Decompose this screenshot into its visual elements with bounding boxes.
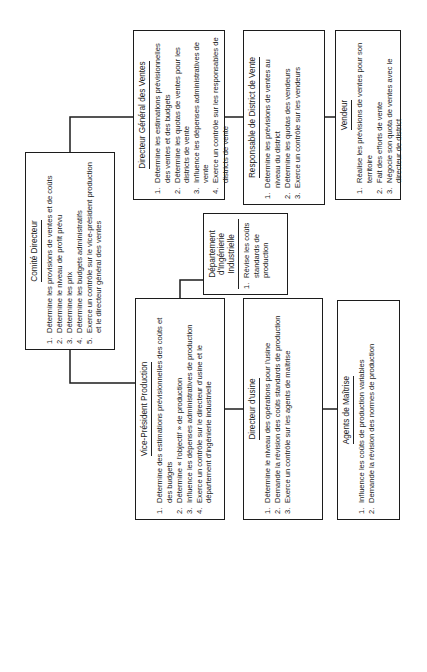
box-title: Vendeur xyxy=(340,100,352,131)
item-number: 1. xyxy=(357,503,366,514)
box-title: Vice-Président Production xyxy=(140,362,152,457)
responsibility-item: 3.Détermine les prix xyxy=(65,158,74,344)
item-number: 3. xyxy=(192,183,211,194)
item-number: 2. xyxy=(283,188,292,199)
item-number: 3. xyxy=(385,183,404,194)
responsibility-list: 1.Influence les coûts de production vari… xyxy=(357,306,376,514)
responsibility-item: 1.Détermine des estimations prévisionnel… xyxy=(155,304,174,514)
item-number: 4. xyxy=(211,183,230,194)
box-directeur-general-ventes: Directeur Général des Ventes 1.Détermine… xyxy=(133,30,225,200)
responsibility-list: 1.Détermine des estimations prévisionnel… xyxy=(155,304,213,514)
item-text: Détermine « l'objectif » de production xyxy=(175,304,184,503)
responsibility-item: 4.Exerce un contrôle sur les responsable… xyxy=(211,36,230,194)
responsibility-item: 3.Exerce un contrôle sur les agents de m… xyxy=(283,304,292,514)
responsibility-list: 1.Détermine le niveau des opérations pou… xyxy=(263,304,292,514)
responsibility-item: 1.Détermine les provisions de ventes et … xyxy=(45,158,54,344)
responsibility-item: 2.Fait des efforts de vente xyxy=(375,36,384,194)
box-title: Département d'Ingénierie Industrielle xyxy=(208,219,239,289)
item-number: 2. xyxy=(175,503,184,514)
item-text: Détermine les estimations prévisionnelle… xyxy=(153,36,172,183)
responsibility-item: 1.Détermine le niveau des opérations pou… xyxy=(263,304,272,514)
item-number: 5. xyxy=(85,333,104,344)
item-text: Exerce un contrôle sur le vice-président… xyxy=(85,158,104,333)
item-text: Exerce un contrôle sur les agents de maî… xyxy=(283,304,292,503)
item-number: 4. xyxy=(195,503,214,514)
item-number: 3. xyxy=(293,188,302,199)
item-text: Exerce un contrôle sur les vendeurs xyxy=(293,36,302,188)
item-text: Exerce un contrôle sur le directeur d'us… xyxy=(195,304,214,503)
item-number: 3. xyxy=(185,503,194,514)
item-text: Négocie son quota de ventes avec le dire… xyxy=(385,36,404,183)
box-directeur-usine: Directeur d'usine 1.Détermine le niveau … xyxy=(243,298,323,520)
item-number: 2. xyxy=(173,183,192,194)
responsibility-item: 3.Négocie son quota de ventes avec le di… xyxy=(385,36,404,194)
box-departement-ingenierie: Département d'Ingénierie Industrielle 1.… xyxy=(203,213,288,295)
item-number: 1. xyxy=(263,503,272,514)
responsibility-item: 3.Influence les dépenses administratives… xyxy=(185,304,194,514)
responsibility-item: 1.Réalise les prévisions de ventes pour … xyxy=(355,36,374,194)
responsibility-item: 1.Détermine les estimations prévisionnel… xyxy=(153,36,172,194)
item-text: Influence les dépenses administratives d… xyxy=(192,36,211,183)
item-text: Détermine des estimations prévisionnelle… xyxy=(155,304,174,503)
item-text: Demande la révision des normes de produc… xyxy=(367,306,376,503)
item-number: 2. xyxy=(367,503,376,514)
item-number: 3. xyxy=(65,333,74,344)
responsibility-list: 1.Détermine les estimations prévisionnel… xyxy=(153,36,230,194)
box-vice-president-production: Vice-Président Production 1.Détermine de… xyxy=(135,298,225,520)
item-number: 1. xyxy=(242,278,270,289)
box-vendeur: Vendeur 1.Réalise les prévisions de vent… xyxy=(335,30,401,200)
item-text: Influence les dépenses administratives d… xyxy=(185,304,194,503)
item-number: 1. xyxy=(355,183,374,194)
item-text: Fait des efforts de vente xyxy=(375,36,384,183)
responsibility-item: 2.Demande la révision des normes de prod… xyxy=(367,306,376,514)
item-text: Détermine les quotas des vendeurs xyxy=(283,36,292,188)
box-comite-directeur: Comité Directeur 1.Détermine les provisi… xyxy=(25,152,115,350)
box-title: Agents de Maîtrise xyxy=(342,376,354,444)
item-text: Détermine les provisions de ventes et de… xyxy=(45,158,54,333)
responsibility-item: 2.Détermine « l'objectif » de production xyxy=(175,304,184,514)
responsibility-item: 1.Influence les coûts de production vari… xyxy=(357,306,366,514)
box-agents-maitrise: Agents de Maîtrise 1.Influence les coûts… xyxy=(337,300,400,520)
item-text: Demande la révision des coûts standards … xyxy=(273,304,282,503)
item-number: 2. xyxy=(55,333,64,344)
box-responsable-district: Responsable de District de Vente 1.Déter… xyxy=(243,30,325,205)
responsibility-item: 4.Exerce un contrôle sur le directeur d'… xyxy=(195,304,214,514)
responsibility-list: 1.Détermine les provisions de ventes et … xyxy=(45,158,103,344)
responsibility-item: 1.Détermine les prévisions de ventes au … xyxy=(263,36,282,199)
responsibility-item: 3.Influence les dépenses administratives… xyxy=(192,36,211,194)
item-number: 2. xyxy=(273,503,282,514)
item-number: 1. xyxy=(45,333,54,344)
box-title: Comité Directeur xyxy=(30,220,42,281)
item-text: Réalise les prévisions de ventes pour so… xyxy=(355,36,374,183)
item-text: Influence les coûts de production variab… xyxy=(357,306,366,503)
item-number: 1. xyxy=(155,503,174,514)
item-text: Détermine les prévisions de ventes au ni… xyxy=(263,36,282,188)
box-title: Responsable de District de Vente xyxy=(248,57,260,178)
responsibility-item: 2.Demande la révision des coûts standard… xyxy=(273,304,282,514)
item-text: Détermine les budgets administratifs xyxy=(75,158,84,333)
item-number: 4. xyxy=(75,333,84,344)
item-number: 1. xyxy=(263,188,282,199)
item-text: Détermine le niveau des opérations pour … xyxy=(263,304,272,503)
responsibility-item: 5.Exerce un contrôle sur le vice-préside… xyxy=(85,158,104,344)
responsibility-list: 1.Réalise les prévisions de ventes pour … xyxy=(355,36,403,194)
item-text: Détermine les prix xyxy=(65,158,74,333)
item-text: Exerce un contrôle sur les responsables … xyxy=(211,36,230,183)
responsibility-item: 1.Révise les coûts standards de producti… xyxy=(242,219,270,289)
item-number: 1. xyxy=(153,183,172,194)
item-text: Détermine le niveau de profit prévu xyxy=(55,158,64,333)
responsibility-item: 2.Détermine les quotas de ventes pour le… xyxy=(173,36,192,194)
responsibility-item: 3.Exerce un contrôle sur les vendeurs xyxy=(293,36,302,199)
box-title: Directeur d'usine xyxy=(248,378,260,439)
item-number: 3. xyxy=(283,503,292,514)
box-title: Directeur Général des Ventes xyxy=(138,61,150,168)
responsibility-list: 1.Révise les coûts standards de producti… xyxy=(242,219,270,289)
item-text: Détermine les quotas de ventes pour les … xyxy=(173,36,192,183)
item-number: 2. xyxy=(375,183,384,194)
item-text: Révise les coûts standards de production xyxy=(242,219,270,278)
responsibility-item: 2.Détermine les quotas des vendeurs xyxy=(283,36,292,199)
responsibility-list: 1.Détermine les prévisions de ventes au … xyxy=(263,36,302,199)
org-chart: Comité Directeur 1.Détermine les provisi… xyxy=(0,0,427,672)
responsibility-item: 4.Détermine les budgets administratifs xyxy=(75,158,84,344)
responsibility-item: 2.Détermine le niveau de profit prévu xyxy=(55,158,64,344)
